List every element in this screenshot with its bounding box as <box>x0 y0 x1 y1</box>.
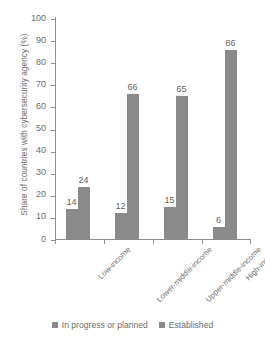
bar: 86 <box>225 50 237 240</box>
bar-value-label: 65 <box>176 84 186 94</box>
y-tick-mark <box>51 41 55 42</box>
y-tick-label: 60 <box>24 101 46 111</box>
bar-value-label: 66 <box>127 82 137 92</box>
y-tick-mark <box>51 63 55 64</box>
y-tick-label: 100 <box>24 13 46 23</box>
legend-swatch-icon <box>159 322 165 328</box>
bar: 24 <box>78 187 90 240</box>
bar-value-label: 15 <box>164 195 174 205</box>
y-tick-label: 0 <box>24 234 46 244</box>
legend-swatch-icon <box>52 322 58 328</box>
bar-chart: Share of countries with cybersecurity ag… <box>0 0 265 339</box>
bar-value-label: 12 <box>115 201 125 211</box>
y-tick-mark <box>51 130 55 131</box>
y-tick-mark <box>51 85 55 86</box>
x-tick-mark <box>55 240 56 244</box>
y-tick-label: 10 <box>24 211 46 221</box>
chart-legend: In progress or plannedEstablished <box>0 320 265 330</box>
bar: 66 <box>127 94 139 240</box>
bar-value-label: 6 <box>216 215 221 225</box>
bar: 15 <box>164 207 176 240</box>
y-tick-label: 50 <box>24 123 46 133</box>
y-tick-mark <box>51 19 55 20</box>
y-tick-label: 20 <box>24 189 46 199</box>
bar-value-label: 14 <box>66 197 76 207</box>
legend-label: In progress or planned <box>62 320 148 330</box>
bar: 6 <box>213 227 225 240</box>
x-tick-mark <box>250 240 251 244</box>
legend-label: Established <box>169 320 213 330</box>
legend-item[interactable]: In progress or planned <box>52 320 148 330</box>
y-tick-mark <box>51 174 55 175</box>
y-tick-mark <box>51 152 55 153</box>
bar-value-label: 24 <box>78 175 88 185</box>
y-axis-line <box>55 17 56 241</box>
y-tick-label: 80 <box>24 57 46 67</box>
legend-item[interactable]: Established <box>159 320 213 330</box>
x-category-label: Low-income <box>96 245 132 281</box>
y-tick-mark <box>51 218 55 219</box>
y-tick-label: 70 <box>24 79 46 89</box>
y-tick-label: 90 <box>24 35 46 45</box>
y-tick-label: 30 <box>24 167 46 177</box>
x-tick-mark <box>202 240 203 244</box>
y-tick-mark <box>51 107 55 108</box>
x-tick-mark <box>104 240 105 244</box>
plot-area: 0102030405060708090100 142412661565686 <box>55 19 251 240</box>
bar-value-label: 86 <box>225 38 235 48</box>
x-tick-mark <box>153 240 154 244</box>
y-tick-label: 40 <box>24 145 46 155</box>
bar: 14 <box>66 209 78 240</box>
y-tick-mark <box>51 196 55 197</box>
bar: 12 <box>115 213 127 240</box>
bar: 65 <box>176 96 188 240</box>
